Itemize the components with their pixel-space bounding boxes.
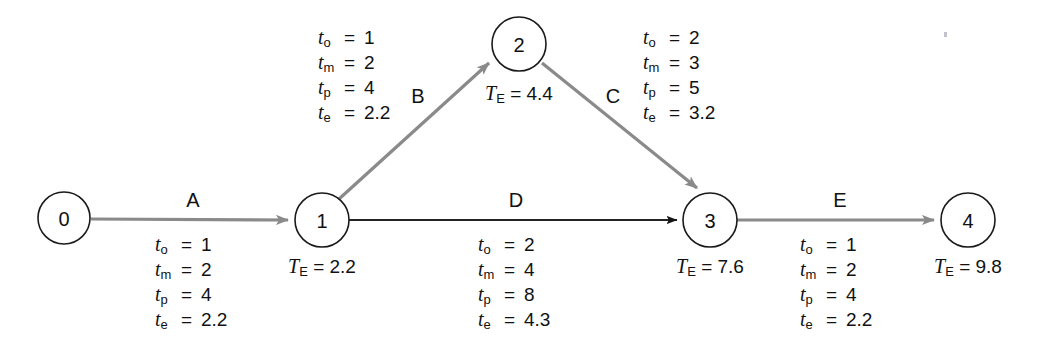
t-o-symbol: to — [318, 25, 344, 52]
time-row-optimistic: to=1 — [155, 232, 227, 257]
equals-sign: = — [181, 307, 201, 332]
t-e-symbol: te — [478, 307, 504, 334]
t-m-value: 2 — [846, 257, 857, 282]
t-m-symbol: tm — [643, 50, 669, 77]
t-m-symbol: tm — [800, 257, 826, 284]
node-label-1: 1 — [316, 211, 327, 231]
te-subscript: E — [496, 91, 505, 106]
t-p-value: 4 — [201, 282, 212, 307]
t-e-value: 2.2 — [846, 307, 872, 332]
time-row-most-likely: tm=2 — [800, 257, 872, 282]
time-block-e: to=1 tm=2 tp=4 te=2.2 — [800, 232, 872, 332]
t-p-value: 8 — [524, 282, 535, 307]
time-row-expected: te=3.2 — [643, 100, 715, 125]
time-row-optimistic: to=2 — [643, 25, 715, 50]
equals-sign: = — [669, 75, 689, 100]
t-p-value: 5 — [689, 75, 700, 100]
te-value: 9.8 — [976, 256, 1002, 277]
time-row-optimistic: to=1 — [318, 25, 390, 50]
te-value: 4.4 — [527, 83, 553, 104]
t-o-symbol: to — [478, 232, 504, 259]
time-row-most-likely: tm=3 — [643, 50, 715, 75]
time-row-expected: te=2.2 — [318, 100, 390, 125]
equals-sign: = — [181, 232, 201, 257]
t-e-value: 2.2 — [201, 307, 227, 332]
t-m-symbol: tm — [318, 50, 344, 77]
t-o-value: 1 — [364, 25, 375, 50]
time-row-most-likely: tm=2 — [318, 50, 390, 75]
t-o-value: 1 — [846, 232, 857, 257]
time-row-pessimistic: tp=4 — [155, 282, 227, 307]
te-symbol: T — [485, 82, 496, 104]
t-m-value: 4 — [524, 257, 535, 282]
equals-sign: = — [344, 75, 364, 100]
equals-sign: = — [826, 232, 846, 257]
te-label-node-2: TE = 4.4 — [485, 83, 553, 103]
time-block-d: to=2 tm=4 tp=8 te=4.3 — [478, 232, 550, 332]
node-label-2: 2 — [513, 35, 524, 55]
time-block-c: to=2 tm=3 tp=5 te=3.2 — [643, 25, 715, 125]
t-o-symbol: to — [643, 25, 669, 52]
equals-sign: = — [181, 282, 201, 307]
equals-sign: = — [669, 50, 689, 75]
te-symbol: T — [676, 255, 687, 277]
t-m-symbol: tm — [478, 257, 504, 284]
equals-sign: = — [344, 25, 364, 50]
t-m-symbol: tm — [155, 257, 181, 284]
t-p-symbol: tp — [800, 282, 826, 309]
equals-sign: = — [181, 257, 201, 282]
time-row-most-likely: tm=2 — [155, 257, 227, 282]
time-row-expected: te=2.2 — [800, 307, 872, 332]
t-p-symbol: tp — [643, 75, 669, 102]
equals-sign: = — [826, 257, 846, 282]
node-label-0: 0 — [58, 209, 69, 229]
time-row-expected: te=4.3 — [478, 307, 550, 332]
equals-sign: = — [669, 25, 689, 50]
te-subscript: E — [299, 264, 308, 279]
te-value: 2.2 — [330, 256, 356, 277]
time-row-expected: te=2.2 — [155, 307, 227, 332]
t-o-value: 1 — [201, 232, 212, 257]
t-p-symbol: tp — [318, 75, 344, 102]
edge-label-c: C — [606, 86, 620, 106]
node-label-3: 3 — [704, 211, 715, 231]
equals-sign: = — [344, 100, 364, 125]
t-p-value: 4 — [846, 282, 857, 307]
t-e-symbol: te — [318, 100, 344, 127]
t-m-value: 2 — [364, 50, 375, 75]
t-m-value: 2 — [201, 257, 212, 282]
t-e-value: 4.3 — [524, 307, 550, 332]
t-e-value: 3.2 — [689, 100, 715, 125]
time-row-optimistic: to=2 — [478, 232, 550, 257]
equals-sign: = — [504, 282, 524, 307]
t-e-symbol: te — [800, 307, 826, 334]
t-o-symbol: to — [800, 232, 826, 259]
time-block-a: to=1 tm=2 tp=4 te=2.2 — [155, 232, 227, 332]
pert-diagram-canvas: 0 1 2 3 4 TE = 2.2 TE = 4.4 TE = 7.6 TE … — [0, 0, 1049, 344]
t-o-value: 2 — [524, 232, 535, 257]
t-e-symbol: te — [155, 307, 181, 334]
t-e-value: 2.2 — [364, 100, 390, 125]
t-m-value: 3 — [689, 50, 700, 75]
equals-sign: = — [344, 50, 364, 75]
node-label-4: 4 — [962, 211, 973, 231]
edge-label-a: A — [186, 190, 199, 210]
te-label-node-1: TE = 2.2 — [288, 256, 356, 276]
t-p-symbol: tp — [155, 282, 181, 309]
edge-label-e: E — [833, 190, 846, 210]
t-o-value: 2 — [689, 25, 700, 50]
t-e-symbol: te — [643, 100, 669, 127]
equals-sign: = — [669, 100, 689, 125]
edge-line-a — [91, 219, 288, 220]
edge-label-b: B — [411, 86, 424, 106]
te-symbol: T — [934, 255, 945, 277]
time-block-b: to=1 tm=2 tp=4 te=2.2 — [318, 25, 390, 125]
t-p-value: 4 — [364, 75, 375, 100]
t-p-symbol: tp — [478, 282, 504, 309]
t-o-symbol: to — [155, 232, 181, 259]
te-subscript: E — [945, 264, 954, 279]
time-row-pessimistic: tp=4 — [318, 75, 390, 100]
equals-sign: = — [504, 307, 524, 332]
te-subscript: E — [687, 264, 696, 279]
te-symbol: T — [288, 255, 299, 277]
